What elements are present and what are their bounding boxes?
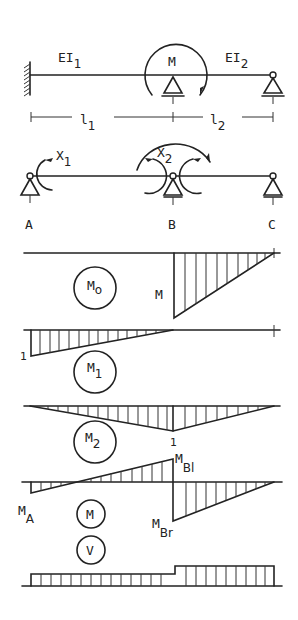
- applied-moment-icon: M: [145, 44, 207, 95]
- primary-system: A B C X1 X2: [21, 144, 282, 232]
- beam-force-method-diagram: EI1 EI2 M l1 l2: [0, 0, 298, 620]
- m1-diagram: 1 M1: [20, 325, 280, 393]
- m0-value-label: M: [155, 287, 163, 302]
- final-moment-diagram: MA MBl MBr M: [18, 451, 282, 540]
- m2-diagram: 1 M2: [24, 406, 280, 463]
- fixed-support-icon: [24, 62, 30, 96]
- roller-support-icon: [262, 72, 284, 104]
- structure-system: EI1 EI2 M l1 l2: [24, 44, 284, 133]
- ma-label: MA: [18, 503, 35, 526]
- svg-text:M: M: [168, 54, 176, 69]
- support-c-label: C: [268, 217, 276, 232]
- m2-name: M2: [85, 430, 100, 451]
- m1-name: M1: [87, 360, 102, 381]
- m2-value-label: 1: [170, 436, 177, 449]
- shear-diagram-name: V: [86, 543, 94, 558]
- ei2-label: EI2: [225, 50, 248, 71]
- support-a-label: A: [25, 217, 33, 232]
- m0-diagram: M Mo: [24, 248, 280, 318]
- pin-support-icon: [162, 77, 184, 104]
- l2-label: l2: [210, 112, 225, 133]
- shear-diagram: V: [22, 536, 282, 586]
- moment-diagram-name: M: [86, 507, 94, 522]
- roller-support-icon: [264, 179, 282, 195]
- ei1-label: EI1: [58, 50, 81, 71]
- redundant-x2-outer-arc-icon: [137, 144, 210, 170]
- m0-name: Mo: [87, 278, 102, 297]
- pin-support-icon: [21, 179, 39, 195]
- redundant-x1-arrow-icon: [37, 160, 52, 190]
- mbr-label: MBr: [152, 516, 173, 540]
- x1-label: X1: [56, 148, 71, 169]
- l1-label: l1: [80, 112, 95, 133]
- pin-support-icon: [164, 179, 182, 195]
- mbl-label: MBl: [175, 451, 194, 475]
- dimension-lines: l1 l2: [31, 112, 273, 133]
- m1-value-label: 1: [20, 350, 27, 363]
- support-b-label: B: [168, 217, 176, 232]
